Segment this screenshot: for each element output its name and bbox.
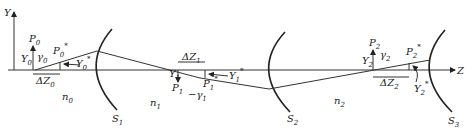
pointer-y2-star [413,66,417,82]
label-gamma2: γ2 [380,49,391,63]
label-dz1: ΔZ1 [181,51,201,65]
label-dz0: ΔZ0 [35,75,55,89]
z-axis-label: Z [456,65,465,76]
label-p2-star: P2* [405,43,421,60]
label-s2: S2 [287,113,299,127]
label-n2: n2 [334,95,345,109]
label-n0: n0 [62,91,73,105]
surface-s2 [269,32,290,112]
optical-ray-diagram: Y Z P0 Y0 γ0 P0* Y0* ΔZ0 n0 S1 n1 ΔZ1 Y1… [0,0,467,132]
label-p0: P0 [28,33,41,47]
surface-s3 [429,30,452,112]
label-dz2: ΔZ2 [379,77,399,91]
label-p1-star: P1* [202,75,218,92]
label-s3: S3 [448,115,460,129]
label-y2: Y2 [362,55,374,69]
label-y2-star: Y2* [414,80,429,97]
label-s1: S1 [112,113,123,127]
label-y0-star: Y0* [76,55,91,72]
label-y0: Y0 [21,53,33,67]
y-axis-label: Y [4,7,12,18]
label-p1: P1 [171,82,183,96]
label-gamma1: −γ1 [188,89,207,103]
pointer-y1-star [209,74,228,76]
label-gamma0: γ0 [37,51,48,65]
label-p2: P2 [368,37,381,51]
label-p0-star: P0* [52,42,68,59]
label-n1: n1 [150,97,161,111]
